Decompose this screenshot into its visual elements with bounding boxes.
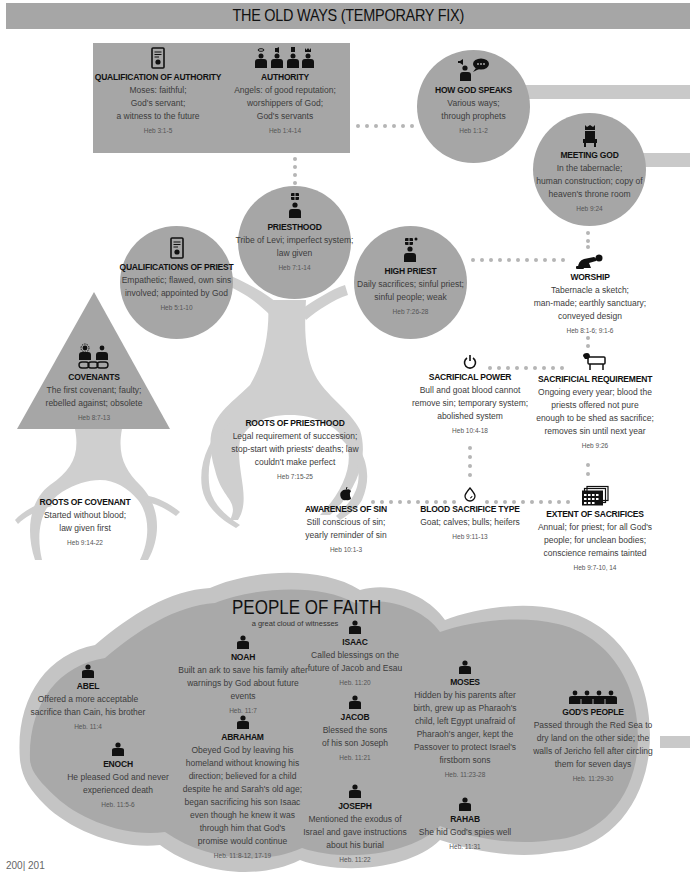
- node-covenants: COVENANTS The first covenant; faulty; re…: [35, 343, 153, 424]
- scripture-ref: Heb 7:15-25: [230, 470, 360, 483]
- person-icon: [82, 664, 94, 678]
- priest-icon: [288, 193, 302, 219]
- scripture-ref: Heb 10:4-18: [410, 424, 530, 437]
- person-icon: [349, 784, 361, 798]
- scripture-ref: Heb 9:14-22: [30, 536, 140, 549]
- page-numbers: 200| 201: [6, 860, 45, 871]
- node-sacrificial-requirement: SACRIFICIAL REQUIREMENT Ongoing every ye…: [530, 353, 660, 452]
- scripture-ref: Heb 1:1-2: [417, 124, 530, 137]
- high-priest-icon: [403, 237, 419, 263]
- person-icon: [349, 695, 361, 709]
- scripture-ref: Heb. 11:31: [405, 840, 525, 853]
- scripture-ref: Heb. 11:4: [28, 720, 148, 733]
- node-awareness-of-sin: AWARENESS OF SIN Still conscious of sin;…: [296, 487, 396, 556]
- node-qualifications-of-priest: QUALIFICATIONS OF PRIEST Empathetic; fla…: [116, 237, 237, 314]
- scripture-ref: Heb 8:7-13: [35, 411, 153, 424]
- person-isaac: ISAAC Called blessings on the future of …: [300, 620, 410, 689]
- power-icon: [463, 355, 477, 369]
- person-noah: NOAH Built an ark to save his family aft…: [176, 635, 310, 717]
- scripture-ref: Heb. 11:21: [300, 751, 410, 764]
- person-icon: [459, 660, 471, 674]
- person-jacob: JACOB Blessed the sons of his son Joseph…: [300, 695, 410, 764]
- blood-drop-icon: [464, 487, 476, 501]
- calendar-stack-icon: [581, 486, 609, 506]
- scripture-ref: Heb. 11:8-12, 17-19: [180, 849, 305, 862]
- scripture-ref: Heb. 11:29-30: [530, 772, 656, 785]
- throne-icon: [583, 125, 597, 147]
- person-icon: [237, 715, 249, 729]
- person-enoch: ENOCH He pleased God and never experienc…: [58, 742, 178, 811]
- scripture-ref: Heb 7:1-14: [235, 261, 354, 274]
- group-gods-people: GOD'S PEOPLE Passed through the Red Sea …: [530, 690, 656, 785]
- scripture-ref: Heb 9:26: [530, 439, 660, 452]
- person-moses: MOSES Hidden by his parents after birth,…: [405, 660, 525, 781]
- person-joseph: JOSEPH Mentioned the exodus of Israel an…: [296, 784, 414, 866]
- node-roots-of-covenant: ROOTS OF COVENANT Started without blood;…: [30, 496, 140, 549]
- person-abraham: ABRAHAM Obeyed God by leaving his homela…: [180, 715, 305, 862]
- node-title: QUALIFICATION OF AUTHORITY: [93, 71, 223, 84]
- person-icon: [459, 797, 471, 811]
- node-blood-sacrifice-type: BLOOD SACRIFICE TYPE Goat; calves; bulls…: [415, 487, 525, 543]
- four-persons-icon: [254, 47, 316, 69]
- group-of-people-icon: [569, 690, 617, 704]
- people-of-faith-title: PEOPLE OF FAITH: [232, 596, 381, 619]
- person-rahab: RAHAB She hid God's spies well Heb. 11:3…: [405, 797, 525, 853]
- scripture-ref: Heb 8:1-6; 9:1-6: [525, 324, 655, 337]
- scripture-ref: Heb 10:1-3: [296, 543, 396, 556]
- scripture-ref: Heb 9:24: [528, 202, 651, 215]
- person-icon: [237, 635, 249, 649]
- scripture-ref: Heb 3:1-5: [93, 124, 223, 137]
- scripture-ref: Heb 7:26-28: [350, 305, 471, 318]
- covenant-chain-icon: [77, 343, 111, 369]
- kneeling-person-icon: [576, 253, 604, 269]
- speaking-person-icon: [457, 58, 491, 82]
- node-worship: WORSHIP Tabernacle a sketch; man-made; e…: [525, 253, 655, 337]
- node-how-god-speaks: HOW GOD SPEAKS Various ways; through pro…: [417, 58, 530, 137]
- certificate-icon: [151, 47, 165, 69]
- person-icon: [112, 742, 124, 756]
- node-priesthood: PRIESTHOOD Tribe of Levi; imperfect syst…: [235, 193, 354, 274]
- person-abel: ABEL Offered a more acceptable sacrifice…: [28, 664, 148, 733]
- node-authority: AUTHORITY Angels: of good reputation; wo…: [220, 47, 350, 137]
- scripture-ref: Heb. 11:22: [296, 853, 414, 866]
- scripture-ref: Heb 1:4-14: [220, 124, 350, 137]
- scripture-ref: Heb 5:1-10: [116, 301, 237, 314]
- person-icon: [349, 620, 361, 634]
- node-title: AUTHORITY: [220, 71, 350, 84]
- bitten-apple-icon: [340, 487, 352, 501]
- node-roots-of-priesthood: ROOTS OF PRIESTHOOD Legal requirement of…: [230, 417, 360, 483]
- node-qualification-of-authority: QUALIFICATION OF AUTHORITY Moses: faithf…: [93, 47, 223, 137]
- node-meeting-god: MEETING GOD In the tabernacle; human con…: [528, 125, 651, 215]
- scripture-ref: Heb 9:7-10, 14: [530, 561, 660, 574]
- scripture-ref: Heb. 11:20: [300, 676, 410, 689]
- scripture-ref: Heb. 11:23-28: [405, 768, 525, 781]
- lamb-icon: [583, 353, 607, 371]
- node-sacrificial-power: SACRIFICAL POWER Bull and goat blood can…: [410, 355, 530, 437]
- scripture-ref: Heb 9:11-13: [415, 530, 525, 543]
- node-high-priest: HIGH PRIEST Daily sacrifices; sinful pri…: [350, 237, 471, 318]
- scripture-ref: Heb. 11:5-6: [58, 798, 178, 811]
- certificate-icon: [170, 237, 184, 259]
